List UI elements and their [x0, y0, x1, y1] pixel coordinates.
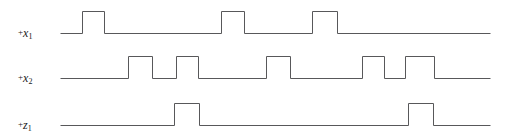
- waveform-canvas: [0, 0, 508, 140]
- waveform-trace-x2: [61, 57, 491, 79]
- waveform-trace-z1: [61, 104, 491, 126]
- waveform-trace-x1: [61, 12, 491, 34]
- timing-diagram: +x1 +x2 +z1: [0, 0, 508, 140]
